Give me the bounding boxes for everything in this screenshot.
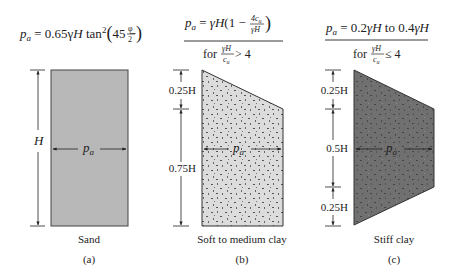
dimension-0.5H-c: 0.5H xyxy=(326,142,348,154)
formula-a-phi: φ xyxy=(128,24,133,33)
formula-b-line2: for xyxy=(203,47,217,61)
svg-text:γH: γH xyxy=(251,25,261,34)
svg-text:≤ 4: ≤ 4 xyxy=(385,47,401,61)
formula-b-line1: pa = γH(1 − xyxy=(184,15,246,32)
svg-text:γH: γH xyxy=(222,44,232,53)
svg-text:cu: cu xyxy=(223,55,230,65)
caption-c: (c) xyxy=(388,253,401,266)
svg-text:cu: cu xyxy=(373,55,380,65)
earth-pressure-diagram: pa = 0.65γH tan2(45 − φ 2 ) H pa Sand (a… xyxy=(0,0,451,276)
caption-a: (a) xyxy=(83,253,96,266)
dimension-H: H xyxy=(33,133,44,148)
dimension-0.25H-c-bottom: 0.25H xyxy=(321,201,348,213)
formula-a: pa = 0.65γH tan2(45 − xyxy=(19,23,136,44)
svg-text:): ) xyxy=(136,23,142,44)
svg-text:4cu: 4cu xyxy=(251,14,262,24)
dimension-0.75H-b: 0.75H xyxy=(169,162,196,174)
dimension-0.25H-b: 0.25H xyxy=(169,84,196,96)
panel-c: pa = 0.2γH to 0.4γH for γH cu ≤ 4 0.25H … xyxy=(321,20,434,266)
soil-label-stiff-clay: Stiff clay xyxy=(374,233,415,245)
panel-a: pa = 0.65γH tan2(45 − φ 2 ) H pa Sand (a… xyxy=(19,23,142,266)
caption-b: (b) xyxy=(236,253,249,266)
svg-text:): ) xyxy=(265,13,271,34)
formula-c-line1: pa = 0.2γH to 0.4γH xyxy=(325,20,430,37)
formula-c-line2: for xyxy=(353,47,367,61)
soil-label-sand: Sand xyxy=(78,233,101,245)
svg-text:> 4: > 4 xyxy=(235,47,251,61)
svg-text:γH: γH xyxy=(372,44,382,53)
dimension-0.25H-c-top: 0.25H xyxy=(321,84,348,96)
panel-b: pa = γH(1 − 4cu γH ) for γH cu > 4 0.25H… xyxy=(169,13,287,266)
svg-text:2: 2 xyxy=(128,35,132,44)
soil-label-soft-clay: Soft to medium clay xyxy=(197,233,287,245)
